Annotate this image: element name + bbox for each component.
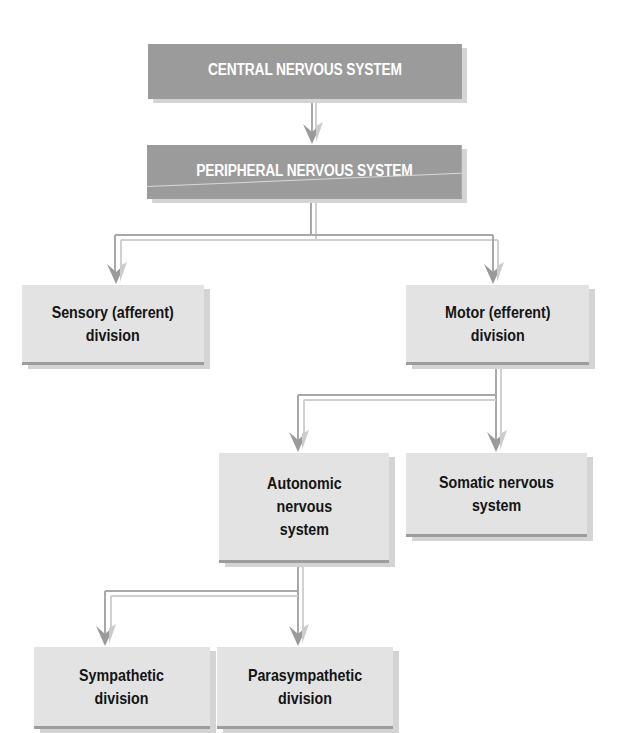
edge-autonomic-branch — [96, 564, 309, 646]
node-label: Motor (efferent) division — [445, 301, 551, 347]
node-sensory-division: Sensory (afferent) division — [22, 285, 204, 365]
node-label: Somatic nervous system — [439, 471, 554, 517]
node-label: Sensory (afferent) division — [52, 301, 174, 347]
node-label: CENTRAL NERVOUS SYSTEM — [208, 61, 402, 79]
nervous-system-diagram: CENTRAL NERVOUS SYSTEM PERIPHERAL NERVOU… — [0, 0, 630, 733]
node-autonomic-nervous-system: Autonomic nervous system — [219, 453, 389, 563]
node-label: Parasympathetic division — [248, 664, 362, 710]
node-central-nervous-system: CENTRAL NERVOUS SYSTEM — [148, 44, 462, 99]
node-somatic-nervous-system: Somatic nervous system — [406, 453, 587, 537]
node-motor-division: Motor (efferent) division — [406, 285, 589, 365]
edge-motor-branch — [289, 366, 507, 452]
node-label: Autonomic nervous system — [267, 472, 342, 541]
connector-lines — [0, 0, 630, 733]
edge-cns-pns — [303, 100, 323, 144]
edge-pns-branch — [107, 199, 504, 284]
node-parasympathetic-division: Parasympathetic division — [217, 647, 393, 729]
node-label: Sympathetic division — [80, 664, 165, 710]
node-sympathetic-division: Sympathetic division — [34, 647, 210, 729]
node-peripheral-nervous-system: PERIPHERAL NERVOUS SYSTEM — [147, 145, 462, 199]
